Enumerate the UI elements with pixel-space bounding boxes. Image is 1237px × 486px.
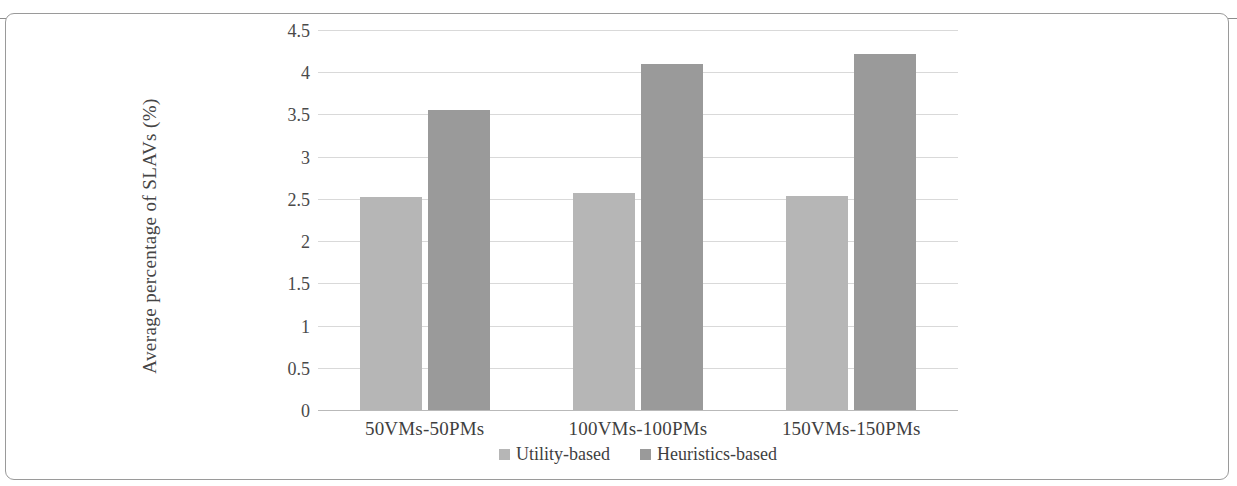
x-axis-category-label: 50VMs-50PMs [318, 418, 531, 440]
legend-item: Heuristics-based [640, 444, 777, 465]
y-axis-tick-label: 0 [240, 402, 310, 420]
y-axis-tick-label: 4 [240, 64, 310, 82]
bar-chart: Average percentage of SLAVs (%) 4.543.53… [0, 0, 1237, 486]
y-axis-tick-label: 0.5 [240, 360, 310, 378]
y-axis-tick-label: 1 [240, 318, 310, 336]
y-axis-tick-label: 2 [240, 233, 310, 251]
legend-swatch-icon [640, 449, 651, 460]
x-axis-line [318, 410, 958, 411]
bar [641, 64, 703, 410]
bar [428, 110, 490, 410]
legend-item: Utility-based [499, 444, 610, 465]
chart-legend: Utility-basedHeuristics-based [318, 444, 958, 465]
legend-label: Utility-based [516, 444, 610, 465]
y-axis-tick-label: 4.5 [240, 22, 310, 40]
bar [854, 54, 916, 410]
bar [573, 193, 635, 410]
x-axis-category-label: 150VMs-150PMs [745, 418, 958, 440]
y-axis-tick-label: 3.5 [240, 106, 310, 124]
y-axis-tick-label: 2.5 [240, 191, 310, 209]
legend-label: Heuristics-based [657, 444, 777, 465]
legend-swatch-icon [499, 449, 510, 460]
x-axis-category-label: 100VMs-100PMs [531, 418, 744, 440]
y-axis-tick-label: 3 [240, 149, 310, 167]
y-axis-tick-label: 1.5 [240, 275, 310, 293]
bar [360, 197, 422, 410]
y-axis-title: Average percentage of SLAVs (%) [139, 56, 161, 416]
plot-area: 4.543.532.521.510.50 50VMs-50PMs100VMs-1… [318, 30, 958, 411]
bar [786, 196, 848, 410]
gridline [318, 30, 958, 31]
